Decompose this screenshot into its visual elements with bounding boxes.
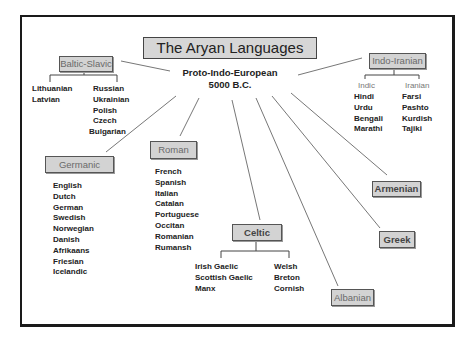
branch-albanian: Albanian [331,289,374,306]
language: Lithuanian [32,84,72,95]
gaelic-list: Irish Gaelic Scottish Gaelic Manx [195,262,253,294]
iranian-list: Farsi Pashto Kurdish Tajiki [402,92,432,135]
slavic-list-extra: Bulgarian [89,127,126,138]
baltic-list: Lithuanian Latvian [32,84,72,106]
language: French [155,167,199,178]
language: Scottish Gaelic [195,273,253,284]
slavic-list: Russian Ukrainian Polish Czech [93,84,129,127]
language: Bengali [354,114,383,125]
language: Rumansh [155,243,199,254]
language: Manx [195,284,253,295]
language: Hindi [354,92,383,103]
root-date: 5000 B.C. [160,79,300,91]
language: Icelandic [53,267,94,278]
germanic-list: English Dutch German Swedish Norwegian D… [53,181,94,278]
language: Italian [155,189,199,200]
language: Spanish [155,178,199,189]
language: Latvian [32,95,72,106]
language: Occitan [155,221,199,232]
language: Cornish [274,284,304,295]
branch-indo-iranian: Indo-Iranian [369,53,426,69]
branch-germanic: Germanic [45,156,114,173]
language: Pashto [402,103,432,114]
language: Ukrainian [93,95,129,106]
language: Swedish [53,213,94,224]
branch-greek: Greek [379,231,415,248]
language: Urdu [354,103,383,114]
indic-label: Indic [358,81,375,90]
language: Catalan [155,199,199,210]
branch-roman: Roman [150,141,197,159]
iranian-label: Iranian [405,81,429,90]
language: Romanian [155,232,199,243]
root-name: Proto-Indo-European [160,67,300,79]
language: Afrikaans [53,246,94,257]
branch-armenian: Armenian [372,181,421,197]
language: Bulgarian [89,127,126,138]
language: Russian [93,84,129,95]
branch-celtic: Celtic [232,224,282,241]
language: Welsh [274,262,304,273]
language: English [53,181,94,192]
language: Kurdish [402,114,432,125]
roman-list: French Spanish Italian Catalan Portugues… [155,167,199,253]
brythonic-list: Welsh Breton Cornish [274,262,304,294]
language: Tajiki [402,124,432,135]
page-title: The Aryan Languages [143,37,317,59]
branch-baltic-slavic: Baltic-Slavic [59,56,113,72]
language: German [53,203,94,214]
language: Dutch [53,192,94,203]
language: Norwegian [53,224,94,235]
language: Farsi [402,92,432,103]
language: Marathi [354,124,383,135]
language: Irish Gaelic [195,262,253,273]
language: Breton [274,273,304,284]
root-node: Proto-Indo-European 5000 B.C. [160,67,300,91]
language: Danish [53,235,94,246]
language: Polish [93,106,129,117]
language: Czech [93,116,129,127]
indic-list: Hindi Urdu Bengali Marathi [354,92,383,135]
language: Portuguese [155,210,199,221]
language: Friesian [53,257,94,268]
